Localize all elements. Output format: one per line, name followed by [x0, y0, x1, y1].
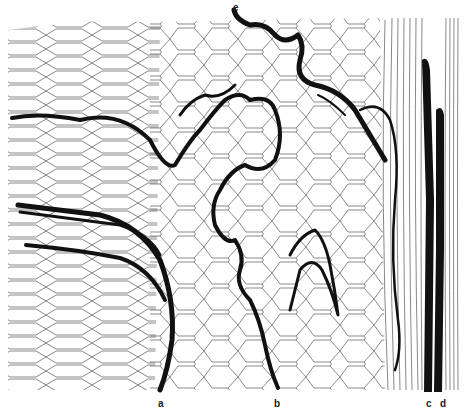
band-d	[434, 108, 444, 392]
label-a: a	[158, 398, 164, 409]
cell-diagram	[0, 0, 464, 414]
label-b: b	[274, 398, 280, 409]
band-c	[422, 59, 434, 392]
polygonal-cells-center	[150, 18, 385, 390]
label-d: d	[440, 398, 446, 409]
dark-bands	[422, 59, 444, 392]
label-e: e	[233, 2, 239, 13]
label-c: c	[426, 398, 432, 409]
